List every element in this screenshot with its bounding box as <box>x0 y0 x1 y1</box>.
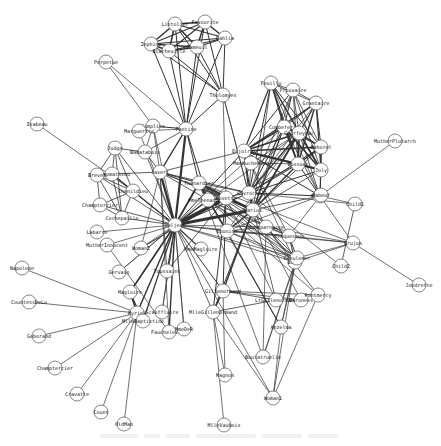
edge-Pontmercy-Woman1 <box>273 295 318 398</box>
node-gillenormand_bro[interactable]: Bamatabois <box>130 145 160 159</box>
node-label: Grantaire <box>302 100 329 106</box>
edge-Tholomyes-Cosette <box>223 95 226 198</box>
node-count[interactable]: Count <box>93 405 108 419</box>
node-label: Eponine <box>216 228 237 235</box>
node-magloire[interactable]: Magloire <box>118 285 142 299</box>
node-cochepaille[interactable]: Cochepaille <box>105 211 138 225</box>
node-label: Child1 <box>346 201 364 207</box>
node-gillenormand[interactable]: Gillenormand <box>205 284 241 298</box>
node-label: Brevet <box>88 172 106 178</box>
node-label: Gavroche <box>237 190 261 196</box>
node-perpetue[interactable]: Perpetue <box>94 55 118 69</box>
node-label: Bamatabois <box>130 149 160 155</box>
node-label: CountessDeLo <box>11 299 47 305</box>
edge-Myriel-OldMan <box>124 313 137 424</box>
node-tholomyes[interactable]: Tholomyes <box>209 88 236 102</box>
node-label: MmeMagloire <box>184 246 217 253</box>
node-motherplutarch[interactable]: MotherPlutarch <box>374 134 416 148</box>
node-fameuil[interactable]: Fameuil <box>186 40 207 54</box>
node-label: Mabeuf <box>312 192 330 198</box>
node-label: Prouvaire <box>279 87 306 93</box>
node-anzelma[interactable]: Anzelma <box>270 320 291 334</box>
node-label: Tholomyes <box>209 92 236 99</box>
node-champtercier[interactable]: Champtercier <box>82 198 118 212</box>
node-countessdelo[interactable]: CountessDeLo <box>11 295 47 309</box>
node-mllegillenormand[interactable]: MlleGillenormand <box>189 305 237 319</box>
edge-Myriel-Count <box>101 313 137 412</box>
node-motherinnocent[interactable]: MotherInnocent <box>86 238 128 252</box>
node-judge[interactable]: Judge <box>107 141 122 155</box>
node-label: Marguerite <box>124 128 154 135</box>
node-cravatte[interactable]: Cravatte <box>65 387 89 401</box>
node-label: Brujon <box>344 240 362 247</box>
node-label: Child2 <box>332 263 350 269</box>
node-javert[interactable]: Javert <box>151 165 169 179</box>
edge-Gillenormand-Magnon <box>223 291 225 375</box>
node-joly[interactable]: Joly <box>314 163 328 177</box>
edge-Valjean-Gillenormand <box>175 225 223 291</box>
node-jondrette[interactable]: Jondrette <box>405 278 432 292</box>
node-label: Fantine <box>175 126 196 132</box>
edge-Fantine-Thenardier <box>186 129 199 183</box>
node-label: Montparnasse <box>248 224 284 231</box>
node-woman1[interactable]: Woman1 <box>264 391 282 405</box>
node-label: Labarre <box>86 229 107 235</box>
node-label: Magnon <box>216 372 234 379</box>
edge-Marius-Mabeuf <box>253 196 320 210</box>
node-brujon[interactable]: Brujon <box>344 236 362 250</box>
edge-Simplice-Perpetue <box>106 62 153 126</box>
node-label: Cravatte <box>65 391 89 397</box>
node-grantaire[interactable]: Grantaire <box>302 96 329 110</box>
node-label: MlleGillenormand <box>189 309 237 315</box>
node-label: MlleBaptistine <box>122 318 164 325</box>
node-champtercier2[interactable]: Champtercier <box>37 361 73 375</box>
node-label: Count <box>93 409 108 415</box>
node-label: Marius <box>244 207 262 213</box>
edge-Child1-Child2 <box>341 204 355 266</box>
node-label: Zephine <box>140 41 161 48</box>
node-feuilly[interactable]: Feuilly <box>260 76 281 90</box>
edge-Gavroche-Feuilly <box>249 83 271 193</box>
edge-Brujon-Jondrette <box>353 243 419 285</box>
node-favourite[interactable]: Favourite <box>191 15 218 29</box>
edge-MlleGillenormand-Magnon <box>213 312 225 375</box>
node-label: Thenardier <box>184 180 214 186</box>
node-label: OldMan <box>115 421 133 427</box>
node-mllevaubois[interactable]: MlleVaubois <box>207 418 240 432</box>
node-gervais[interactable]: Gervais <box>108 265 129 279</box>
node-napoleon[interactable]: Napoleon <box>10 261 34 275</box>
node-geborand[interactable]: Geborand <box>27 329 51 343</box>
node-label: Champtercier <box>82 202 118 209</box>
edge-Magloire-Valjean <box>130 225 175 292</box>
node-label: MotherPlutarch <box>374 138 416 144</box>
node-label: Magloire <box>118 289 142 296</box>
node-label: Bahorel <box>310 144 331 150</box>
node-label: MmeDeR <box>175 326 194 332</box>
node-label: Jondrette <box>405 282 432 288</box>
node-label: Toussaint <box>153 268 180 274</box>
node-label: Claquesous <box>274 233 304 240</box>
node-label: Bossuet <box>287 161 308 167</box>
node-woman2[interactable]: Woman2 <box>132 241 150 255</box>
node-label: Listolier <box>161 21 188 27</box>
node-label: Gueulemer <box>283 255 310 261</box>
node-label: Napoleon <box>10 265 34 272</box>
edge-Enjolras-Feuilly <box>244 83 271 151</box>
node-label: Valjean <box>164 222 185 229</box>
node-label: Courfeyrac <box>284 130 314 137</box>
node-label: Geborand <box>27 333 51 339</box>
node-listolier[interactable]: Listolier <box>161 17 188 31</box>
edge-Fameuil-Tholomyes <box>197 47 223 95</box>
node-labarre[interactable]: Labarre <box>86 225 107 239</box>
edge-Javert-Enjolras <box>160 151 244 172</box>
node-boulatruelle[interactable]: Boulatruelle <box>245 350 281 364</box>
edge-Dahlia-Tholomyes <box>223 38 225 95</box>
node-label: Champtercier <box>37 365 73 372</box>
node-fantine[interactable]: Fantine <box>175 122 196 136</box>
node-label: Fameuil <box>186 44 207 50</box>
node-prouvaire[interactable]: Prouvaire <box>279 83 306 97</box>
node-child1[interactable]: Child1 <box>346 197 364 211</box>
node-oldman[interactable]: OldMan <box>115 417 133 431</box>
node-label: Blacheville <box>152 48 185 54</box>
node-label: Javert <box>151 169 169 175</box>
